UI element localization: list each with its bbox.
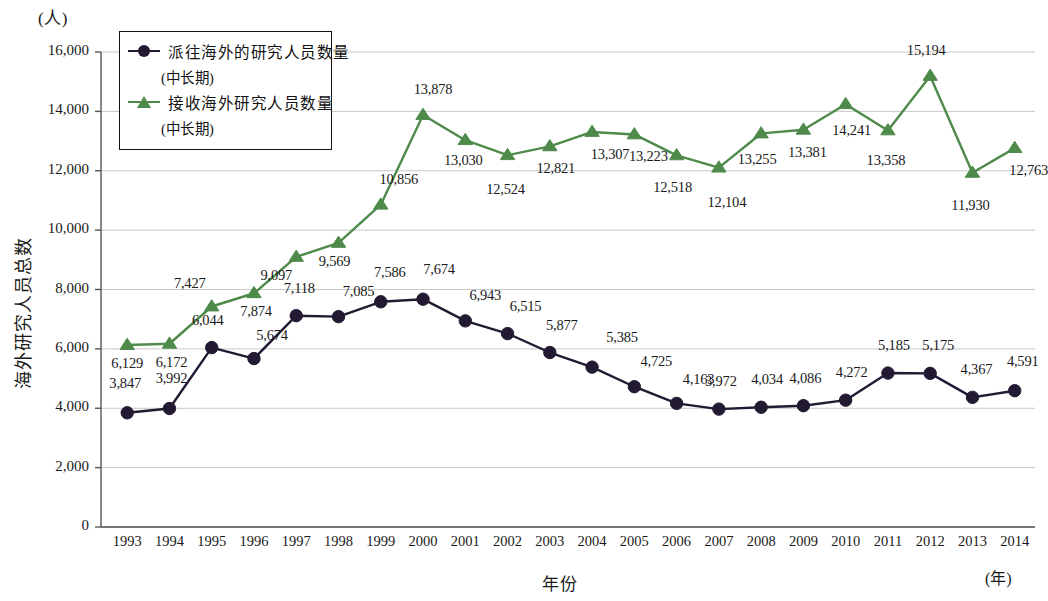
data-label: 3,992: [156, 370, 188, 387]
data-label: 4,367: [961, 361, 993, 378]
legend-label-0: 派往海外的研究人员数量: [168, 40, 350, 62]
data-label: 5,674: [256, 327, 288, 344]
data-label: 15,194: [907, 42, 946, 59]
x-tick-label: 1993: [113, 533, 142, 550]
x-tick-label: 2006: [662, 533, 691, 550]
x-tick-label: 2012: [916, 533, 945, 550]
x-tick-label: 1995: [197, 533, 226, 550]
data-label: 5,877: [546, 317, 578, 334]
y-tick-label: 8,000: [27, 280, 89, 297]
circle-marker-icon: [128, 43, 160, 59]
data-label: 5,175: [922, 337, 954, 354]
x-tick-label: 1999: [366, 533, 395, 550]
legend: 派往海外的研究人员数量 (中长期) 接收海外研究人员数量 (中长期): [119, 31, 332, 150]
data-label: 3,972: [705, 373, 737, 390]
data-label: 4,725: [641, 353, 673, 370]
data-label: 9,569: [319, 253, 351, 270]
legend-sublabel-row-0: (中长期): [120, 63, 331, 89]
data-label: 10,856: [379, 171, 418, 188]
data-label: 12,763: [1009, 162, 1048, 179]
y-tick-label: 0: [27, 517, 89, 534]
data-label: 13,307: [591, 146, 630, 163]
data-label: 5,385: [606, 329, 638, 346]
data-label: 4,272: [836, 364, 868, 381]
legend-sublabel-row-1: (中长期): [120, 114, 331, 140]
legend-item-0: 派往海外的研究人员数量: [120, 38, 331, 63]
data-label: 13,358: [867, 152, 906, 169]
legend-label-1: 接收海外研究人员数量: [168, 91, 333, 113]
data-label: 5,185: [878, 337, 910, 354]
x-tick-label: 2001: [451, 533, 480, 550]
data-label: 6,129: [111, 355, 143, 372]
data-label: 7,674: [423, 261, 455, 278]
data-label: 7,085: [343, 283, 375, 300]
x-tick-label: 2000: [409, 533, 438, 550]
data-label: 6,515: [510, 298, 542, 315]
x-tick-label: 2011: [874, 533, 902, 550]
x-tick-label: 1997: [282, 533, 311, 550]
y-tick-label: 14,000: [27, 101, 89, 118]
data-label: 12,821: [536, 160, 575, 177]
data-label: 13,381: [788, 144, 827, 161]
data-label: 7,874: [240, 303, 272, 320]
data-label: 7,427: [174, 275, 206, 292]
data-label: 6,943: [469, 287, 501, 304]
y-tick-label: 12,000: [27, 161, 89, 178]
data-label: 14,241: [832, 122, 871, 139]
x-tick-label: 2008: [747, 533, 776, 550]
triangle-marker-icon: [128, 94, 160, 110]
data-label: 6,044: [192, 312, 224, 329]
y-tick-label: 6,000: [27, 339, 89, 356]
y-tick-label: 10,000: [27, 220, 89, 237]
data-label: 4,086: [790, 370, 822, 387]
x-tick-label: 2013: [958, 533, 987, 550]
y-tick-label: 16,000: [27, 42, 89, 59]
data-label: 4,591: [1007, 353, 1039, 370]
x-tick-label: 2009: [789, 533, 818, 550]
data-label: 12,524: [486, 181, 525, 198]
legend-sublabel-1: (中长期): [161, 117, 214, 138]
data-label: 13,878: [414, 81, 453, 98]
x-tick-label: 2005: [620, 533, 649, 550]
x-tick-label: 2014: [1000, 533, 1029, 550]
data-label: 12,104: [708, 194, 747, 211]
x-tick-label: 2003: [535, 533, 564, 550]
legend-item-1: 接收海外研究人员数量: [120, 89, 331, 114]
x-tick-label: 2002: [493, 533, 522, 550]
x-tick-label: 1996: [239, 533, 268, 550]
x-tick-label: 2010: [831, 533, 860, 550]
y-tick-label: 4,000: [27, 398, 89, 415]
legend-sublabel-0: (中长期): [161, 66, 214, 87]
x-tick-label: 2007: [704, 533, 733, 550]
data-label: 4,034: [751, 371, 783, 388]
data-label: 9,097: [260, 267, 292, 284]
data-label: 13,255: [738, 151, 777, 168]
data-label: 6,172: [156, 354, 188, 371]
data-label: 13,030: [444, 152, 483, 169]
data-label: 3,847: [109, 375, 141, 392]
data-label: 12,518: [653, 179, 692, 196]
x-tick-label: 1994: [155, 533, 184, 550]
data-label: 7,586: [374, 264, 406, 281]
data-label: 11,930: [951, 197, 989, 214]
y-tick-label: 2,000: [27, 458, 89, 475]
data-label: 13,223: [629, 148, 668, 165]
x-tick-label: 1998: [324, 533, 353, 550]
x-tick-label: 2004: [578, 533, 607, 550]
